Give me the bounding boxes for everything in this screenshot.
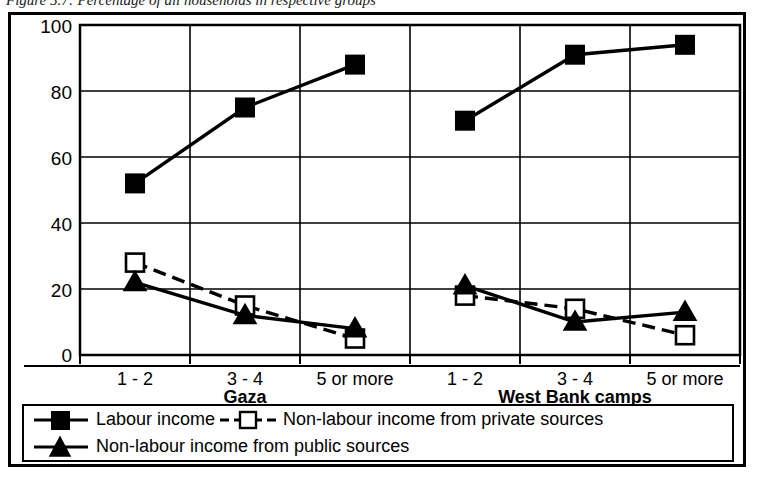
x-tick-label-gaza-5-or-more: 5 or more (316, 369, 393, 389)
x-tick-label-wb-5-or-more: 5 or more (646, 369, 723, 389)
legend-swatch-filled-square (32, 409, 90, 431)
x-tick-label-gaza-1-2: 1 - 2 (117, 369, 153, 389)
chart-legend: Labour income Non-labour income from pri… (22, 404, 734, 462)
legend-label-non-labour-public: Non-labour income from public sources (96, 436, 409, 457)
x-axis-labels-gaza: 1 - 2 3 - 4 5 or more Gaza (117, 369, 394, 407)
y-tick-label-100: 100 (40, 16, 72, 37)
legend-item-non-labour-public[interactable]: Non-labour income from public sources (32, 436, 413, 458)
data-point-marker (126, 174, 144, 192)
data-point-marker (566, 46, 584, 64)
data-point-marker (236, 99, 254, 117)
legend-swatch-open-square-dashed (219, 409, 277, 431)
legend-item-non-labour-private[interactable]: Non-labour income from private sources (219, 409, 607, 431)
legend-swatch-filled-triangle (32, 436, 90, 458)
x-axis-ticks (24, 355, 740, 366)
legend-label-labour-income: Labour income (96, 409, 215, 430)
legend-row-1: Labour income Non-labour income from pri… (24, 406, 732, 433)
legend-row-2: Non-labour income from public sources (24, 433, 732, 460)
x-axis-labels-west-bank: 1 - 2 3 - 4 5 or more West Bank camps (447, 369, 724, 407)
figure-container: Figure 5.7: Percentage of all households… (0, 0, 760, 480)
y-axis: 100 80 60 40 20 0 (40, 16, 72, 366)
y-tick-label-40: 40 (51, 214, 72, 235)
y-tick-label-0: 0 (61, 345, 72, 366)
data-point-marker (346, 56, 364, 74)
legend-item-labour-income[interactable]: Labour income (32, 409, 219, 431)
x-tick-label-wb-3-4: 3 - 4 (557, 369, 593, 389)
legend-label-non-labour-private: Non-labour income from private sources (283, 409, 603, 430)
data-point-marker (676, 36, 694, 54)
x-tick-label-wb-1-2: 1 - 2 (447, 369, 483, 389)
y-tick-label-80: 80 (51, 82, 72, 103)
data-point-marker (126, 254, 144, 272)
y-tick-label-60: 60 (51, 148, 72, 169)
x-tick-label-gaza-3-4: 3 - 4 (227, 369, 263, 389)
data-point-marker (456, 112, 474, 130)
y-tick-label-20: 20 (51, 280, 72, 301)
data-point-marker (676, 326, 694, 344)
